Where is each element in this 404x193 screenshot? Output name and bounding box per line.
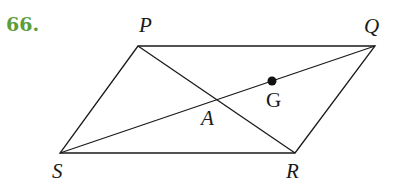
label-s: S xyxy=(52,159,63,183)
label-p: P xyxy=(138,13,152,37)
label-a: A xyxy=(199,106,214,130)
point-g-dot xyxy=(268,77,277,86)
label-r: R xyxy=(285,159,299,183)
parallelogram-diagram: P Q S R A G xyxy=(0,0,404,193)
label-q: Q xyxy=(364,14,379,38)
diagonal-sq xyxy=(60,46,375,153)
label-g: G xyxy=(266,88,281,112)
